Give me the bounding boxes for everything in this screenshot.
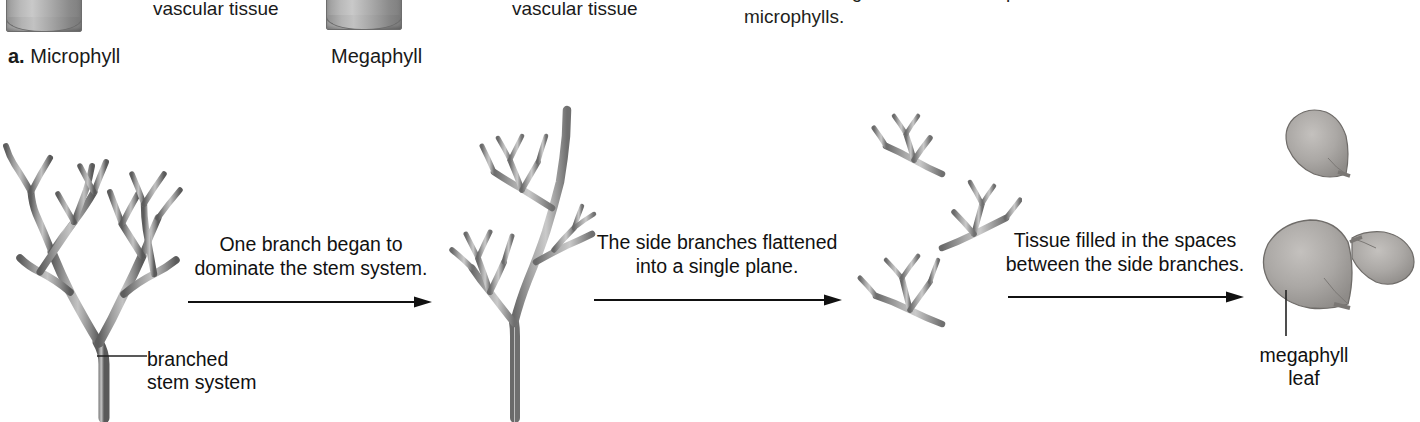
stem-cylinder-icon [6, 0, 82, 32]
body-copy: which are larger and more complex than m… [744, 0, 1384, 29]
stage-caption-1-line2: dominate the stem system. [193, 256, 429, 280]
megaphyll-leaf-callout-line2: leaf [1252, 367, 1356, 390]
microphyll-vascular-tissue-label: vascular tissue [153, 0, 279, 20]
process-arrow-3 [1006, 289, 1246, 305]
dominant-stem-illustration [432, 96, 612, 422]
stage-caption-2-line2: into a single plane. [592, 254, 842, 278]
stage-caption-2: The side branches flattened into a singl… [592, 230, 842, 278]
flattened-side-branches-illustration [842, 96, 1022, 422]
branched-stem-leader-line [96, 352, 148, 360]
microphyll-label-text: Microphyll [25, 45, 121, 67]
stem-cylinder-icon [326, 0, 402, 30]
megaphyll-evolution-figure: vascular tissue vascular tissue a. Micro… [0, 0, 1420, 422]
stage-caption-3: Tissue filled in the spaces between the … [1000, 228, 1250, 276]
megaphyll-vascular-tissue-label: vascular tissue [512, 0, 638, 20]
stage-caption-1: One branch began to dominate the stem sy… [193, 232, 429, 280]
branched-stem-callout-line2: stem system [147, 371, 256, 394]
body-copy-visible-line: microphylls. [744, 4, 1384, 29]
stage-caption-3-line2: between the side branches. [1000, 252, 1250, 276]
process-arrow-1 [186, 294, 434, 310]
process-arrow-2 [592, 292, 844, 308]
megaphyll-title: Megaphyll [331, 44, 422, 68]
stage-caption-1-line1: One branch began to [193, 232, 429, 256]
microphyll-enumerator: a. [8, 45, 25, 67]
stage-caption-3-line1: Tissue filled in the spaces [1000, 228, 1250, 252]
megaphyll-leaf-callout-line1: megaphyll [1252, 344, 1356, 367]
branched-stem-callout: branched stem system [147, 348, 256, 394]
microphyll-title: a. Microphyll [8, 44, 120, 68]
branched-stem-callout-line1: branched [147, 348, 256, 371]
stage-caption-2-line1: The side branches flattened [592, 230, 842, 254]
megaphyll-leaf-callout: megaphyll leaf [1252, 344, 1356, 390]
